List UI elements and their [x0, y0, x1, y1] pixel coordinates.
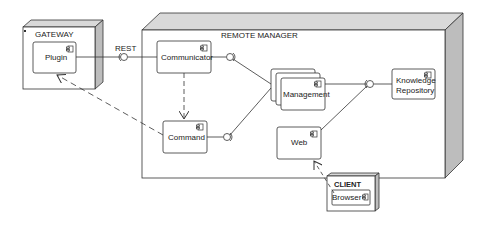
communicator-label: Communicator	[161, 53, 213, 62]
knowledge-label-line1: Knowledge	[396, 76, 436, 85]
rest-label: REST	[115, 44, 136, 53]
knowledge-label-line2: Repository	[396, 86, 434, 95]
communicator-interface-lollipop	[227, 54, 234, 61]
rest-interface-lollipop	[121, 54, 128, 61]
knowledge-interface-lollipop	[367, 81, 374, 88]
plugin-label: Plugin	[45, 53, 67, 62]
management-label: Management	[283, 90, 330, 99]
command-label: Command	[168, 133, 205, 142]
browser-label: Browser	[332, 193, 361, 202]
remote-manager-label: REMOTE MANAGER	[221, 31, 298, 40]
web-label: Web	[291, 138, 307, 147]
client-label: CLIENT	[334, 180, 361, 189]
gateway-label: GATEWAY	[35, 30, 74, 39]
command-interface-lollipop	[224, 134, 231, 141]
